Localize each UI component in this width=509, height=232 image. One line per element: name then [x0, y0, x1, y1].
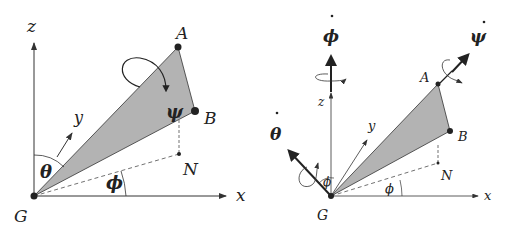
y-label-right: y — [367, 118, 376, 133]
point-n — [177, 152, 181, 156]
phi-dot-label: ϕ — [323, 26, 339, 46]
x-label: x — [236, 185, 246, 205]
z-label: z — [26, 16, 37, 36]
psi-dot-vector — [452, 56, 467, 72]
point-b-right — [447, 128, 453, 134]
point-g-right — [328, 193, 334, 199]
euler-angle-diagram: z y x A B N G θ ϕ ψ z y — [0, 0, 509, 232]
theta-dot-label: θ — [270, 124, 282, 144]
point-b — [191, 107, 199, 115]
theta-label: θ — [40, 161, 52, 182]
left-diagram: z y x A B N G θ ϕ ψ — [14, 16, 246, 226]
point-a-right — [436, 82, 441, 87]
z-label-right: z — [317, 95, 325, 109]
g-label-right: G — [317, 207, 328, 223]
b-label: B — [203, 108, 217, 128]
theta-dot-rotation-icon — [299, 163, 318, 187]
theta-dot-vector — [290, 152, 331, 196]
phi-dot-dot — [331, 15, 334, 18]
g-label: G — [14, 206, 28, 226]
b-label-right: B — [457, 129, 468, 144]
psi-dot-dot — [483, 21, 486, 24]
phi-label: ϕ — [106, 172, 123, 193]
point-n-right — [437, 162, 440, 165]
x-label-right: x — [484, 188, 492, 203]
y-label: y — [73, 108, 84, 127]
n-label-right: N — [440, 168, 453, 183]
y-axis — [57, 133, 72, 157]
a-label-right: A — [419, 70, 429, 85]
n-label: N — [182, 159, 199, 179]
point-g — [31, 193, 38, 200]
right-diagram: z y x A B N G ϕ ϕ ϕ θ ψ — [270, 15, 492, 223]
psi-dot-label: ψ — [470, 26, 487, 46]
triangle-gab-right — [331, 84, 450, 196]
phi-base-label: ϕ — [385, 181, 394, 196]
phi-small-label: ϕ — [323, 175, 331, 189]
phi-arc-right — [400, 180, 402, 196]
theta-dot-dot — [276, 112, 279, 115]
point-a — [175, 44, 182, 51]
psi-label: ψ — [166, 101, 184, 122]
psi-dot-axis-stub — [440, 71, 452, 83]
a-label: A — [174, 23, 188, 43]
